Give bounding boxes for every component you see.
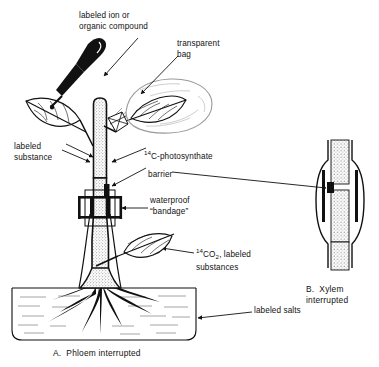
caption-b-line1: B. Xylem — [306, 284, 344, 294]
bandage-line2: “bandage” — [150, 207, 188, 216]
labeled-substance-label: labeledsubstance — [14, 142, 52, 163]
bagged-leaf — [126, 96, 186, 122]
dropper-label-line1: labeled ion or — [79, 11, 130, 20]
bag-tie-node — [104, 112, 128, 132]
bag-label-line1: transparent — [177, 39, 220, 48]
barrier-label: barrier — [148, 170, 172, 181]
bag-label-line2: bag — [177, 50, 191, 59]
photosynthate-text: C-photosynthate — [151, 152, 213, 161]
co2-text: CO — [203, 250, 215, 259]
co2-suffix: , labeled — [219, 250, 251, 259]
left-leaf — [26, 98, 93, 146]
labeled-substance-line1: labeled — [14, 142, 41, 151]
caption-b: B. Xyleminterrupted — [306, 284, 348, 306]
co2-label: 14CO2, labeledsubstances — [196, 246, 251, 273]
water-container — [12, 288, 196, 340]
labeled-substance-line2: substance — [14, 153, 52, 162]
photosynthate-label: 14C-photosynthate — [144, 148, 213, 162]
panel-b-stem — [316, 140, 364, 270]
barrier-mark — [104, 184, 110, 197]
labeled-salts-label: labeled salts — [254, 306, 301, 317]
co2-line2: substances — [196, 263, 238, 272]
figure-canvas: labeled ion ororganic compound transpare… — [0, 0, 379, 367]
waterproof-line1: waterproof — [150, 196, 190, 205]
panel-b-barrier-mark — [327, 182, 334, 193]
caption-a: A. Phloem interrupted — [53, 348, 141, 359]
bag-label: transparentbag — [177, 39, 220, 60]
dropper-label-line2: organic compound — [79, 22, 148, 31]
caption-b-line2: interrupted — [306, 295, 348, 305]
waterproof-bandage-label: waterproof“bandage” — [150, 196, 190, 217]
dropper-pipette — [52, 38, 106, 106]
dropper-label: labeled ion ororganic compound — [79, 11, 148, 32]
